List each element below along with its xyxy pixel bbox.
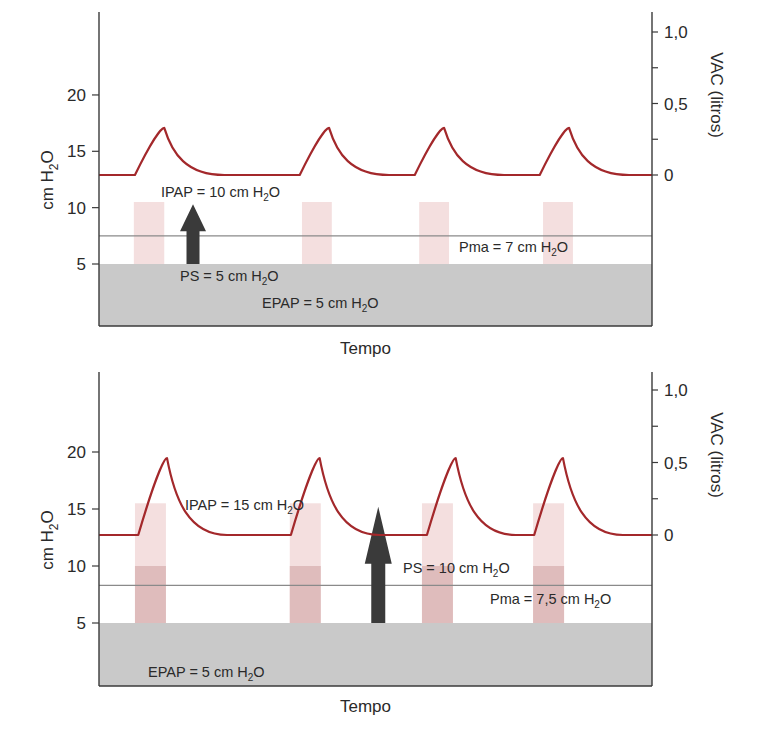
annotation-ipap: IPAP = 15 cm H2O [185,497,304,516]
left-axis-tick-label: 15 [67,142,86,161]
left-axis-tick-label: 5 [77,614,86,633]
pressure-support-arrow-icon [365,507,392,623]
annotation-text: EPAP = 5 cm H [148,664,248,680]
pressure-support-arrow-icon [180,204,206,264]
inspiratory-bar-ps-portion [290,566,321,623]
left-axis-title-text: cm H [38,530,57,570]
left-axis-title-text: cm H [38,170,57,210]
right-axis-tick-label: 0 [664,166,673,185]
annotation-ipap: IPAP = 10 cm H2O [161,184,280,203]
annotation-text: IPAP = 15 cm H [185,497,287,513]
left-axis-tick-label: 5 [77,255,86,274]
right-axis-tick-label: 0,5 [664,95,688,114]
annotation-text: O [367,295,378,311]
left-axis-title-text: O [38,510,57,523]
annotation-text: Pma = 7 cm H [459,239,551,255]
right-axis-tick-label: 1,0 [664,381,688,400]
left-axis-title: cm H2O [38,150,61,210]
chart-panel-top: 510152000,51,0cm H2OVAC (litros)TempoIPA… [38,12,726,358]
annotation-text: O [498,560,509,576]
annotation-text: Pma = 7,5 cm H [490,591,594,607]
left-axis-tick-label: 15 [67,500,86,519]
right-axis-title: VAC (litros) [707,52,726,138]
annotation-text: O [557,239,568,255]
left-axis-tick-label: 10 [67,199,86,218]
annotation-text: O [253,664,264,680]
annotation-text: IPAP = 10 cm H [161,184,263,200]
annotation-ps: PS = 10 cm H2O [403,560,510,579]
annotation-text: O [293,497,304,513]
annotation-text: O [267,268,278,284]
annotation-text: EPAP = 5 cm H [262,295,362,311]
right-axis-title: VAC (litros) [707,412,726,498]
left-axis-tick-label: 20 [67,86,86,105]
inspiratory-bar [302,202,332,264]
x-axis-title: Tempo [340,339,391,358]
annotation-text: PS = 10 cm H [403,560,493,576]
left-axis-tick-label: 20 [67,443,86,462]
left-axis-tick-label: 10 [67,557,86,576]
inspiratory-bar [419,202,449,264]
bipap-pressure-volume-figure: 510152000,51,0cm H2OVAC (litros)TempoIPA… [0,0,762,740]
vac-volume-curve [99,128,652,175]
right-axis-tick-label: 0 [664,526,673,545]
x-axis-title: Tempo [340,697,391,716]
left-axis-title: cm H2O [38,510,61,570]
annotation-text: O [269,184,280,200]
chart-panel-bottom: 510152000,51,0cm H2OVAC (litros)TempoIPA… [38,372,726,716]
inspiratory-bar [134,202,164,264]
right-axis-tick-label: 1,0 [664,23,688,42]
annotation-text: O [600,591,611,607]
right-axis-tick-label: 0,5 [664,454,688,473]
left-axis-title-text: O [38,150,57,163]
annotation-text: PS = 5 cm H [180,268,262,284]
inspiratory-bar-ps-portion [135,566,166,623]
